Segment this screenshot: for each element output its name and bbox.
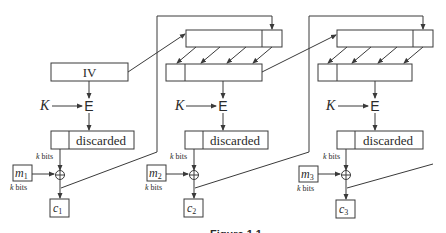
k-bits-label: k bits	[10, 183, 27, 192]
shift-arrow	[352, 47, 371, 63]
key-label: K	[39, 98, 50, 113]
shift-register-lower	[166, 64, 262, 81]
shift-register-upper	[337, 30, 433, 47]
shift-arrow	[201, 47, 220, 63]
shift-arrow	[378, 47, 397, 63]
k-bits-label: k bits	[170, 152, 187, 161]
k-bits-label: k bits	[36, 152, 53, 161]
encrypt-block: E	[84, 98, 93, 114]
discarded-label: discarded	[76, 133, 126, 148]
shift-arrow	[253, 47, 272, 63]
stage-1: IV K E discarded k bits m1 k bits c1	[10, 63, 134, 217]
iv-label: IV	[83, 65, 97, 80]
feedback-path-3	[347, 164, 433, 188]
k-bits-label: k bits	[297, 184, 314, 193]
discarded-label: discarded	[363, 133, 413, 148]
shift-arrow	[177, 47, 196, 63]
stage-2: K E discarded k bits m2 k bits c2	[145, 30, 282, 217]
encrypt-block: E	[218, 98, 227, 114]
k-bits-label: k bits	[323, 152, 340, 161]
shift-arrow	[328, 47, 347, 63]
figure-caption: Figure 1.1	[210, 228, 262, 233]
key-label: K	[325, 98, 336, 113]
k-bits-label: k bits	[145, 183, 162, 192]
cfb-diagram: IV K E discarded k bits m1 k bits c1	[0, 0, 446, 233]
shift-arrow	[404, 47, 423, 63]
discarded-label: discarded	[210, 133, 260, 148]
shift-register-upper	[186, 30, 282, 47]
shift-register-lower	[318, 64, 412, 81]
shift-arrow	[227, 47, 246, 63]
encrypt-block: E	[370, 98, 379, 114]
stage-3: K E discarded k bits m3 k bits c3	[297, 30, 433, 218]
key-label: K	[174, 98, 185, 113]
